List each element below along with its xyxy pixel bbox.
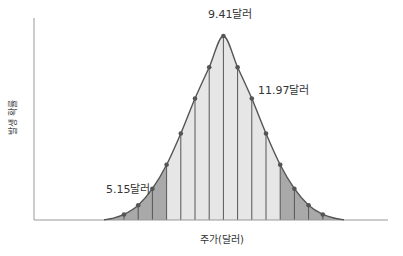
right-tail-area	[280, 0, 350, 220]
data-point	[207, 65, 212, 70]
data-point	[264, 131, 269, 136]
chart-canvas	[0, 0, 403, 256]
data-point	[306, 203, 311, 208]
data-point	[164, 163, 169, 168]
data-point	[250, 96, 255, 101]
data-point	[136, 203, 141, 208]
data-point	[292, 186, 297, 191]
data-point	[278, 163, 283, 168]
data-point	[235, 65, 240, 70]
annotation-upper: 11.97달러	[258, 81, 310, 97]
data-point	[179, 131, 184, 136]
data-point	[193, 96, 198, 101]
data-point	[321, 212, 326, 217]
data-point	[150, 186, 155, 191]
annotation-peak: 9.41달러	[208, 5, 253, 21]
data-point	[221, 34, 226, 39]
data-point	[122, 212, 127, 217]
annotation-lower: 5.15달러	[106, 180, 151, 196]
y-axis-label: 발생 확률	[6, 100, 19, 135]
x-axis-label: 주가(달러)	[200, 231, 244, 246]
